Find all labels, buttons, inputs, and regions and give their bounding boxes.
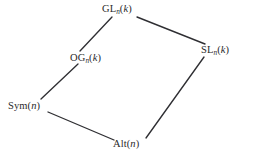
- edge-gl-og: [80, 17, 112, 51]
- node-sym-base: Sym: [8, 100, 28, 111]
- node-sym: Sym(n): [8, 101, 40, 112]
- node-og: OGn(k): [70, 53, 101, 64]
- node-gl-base: GL: [102, 3, 116, 14]
- node-og-base: OG: [70, 52, 85, 63]
- edge-og-sym: [41, 64, 78, 99]
- node-alt-base: Alt: [113, 138, 127, 149]
- node-sym-paren-close: ): [37, 100, 41, 111]
- node-sl: SLn(k): [201, 45, 229, 56]
- lattice-diagram: GLn(k) SLn(k) OGn(k) Sym(n) Alt(n): [0, 0, 253, 162]
- node-og-paren-close: ): [97, 52, 101, 63]
- edge-gl-sl: [137, 17, 205, 44]
- edge-sym-alt: [48, 112, 114, 140]
- node-gl: GLn(k): [102, 4, 132, 15]
- node-og-subscript: n: [85, 56, 89, 65]
- node-sl-base: SL: [201, 44, 213, 55]
- edge-sl-alt: [146, 57, 204, 138]
- node-sl-subscript: n: [213, 48, 217, 57]
- node-gl-paren-close: ): [128, 3, 132, 14]
- node-gl-subscript: n: [116, 7, 120, 16]
- node-alt: Alt(n): [113, 139, 139, 150]
- node-alt-paren-close: ): [136, 138, 140, 149]
- node-sl-paren-close: ): [226, 44, 230, 55]
